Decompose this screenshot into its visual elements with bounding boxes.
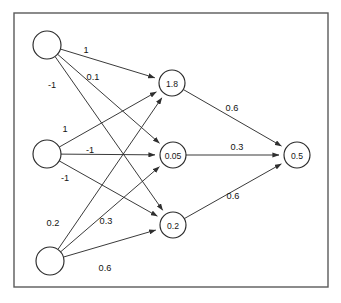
network-canvas: 1.80.050.20.5 10.1-11-1-10.20.30.60.60.3… [0, 0, 341, 303]
node-h2: 0.05 [160, 142, 186, 168]
node-o1: 0.5 [284, 142, 310, 168]
weight-label-i3-h1: 0.2 [47, 218, 60, 228]
neural-network-diagram: 1.80.050.20.5 10.1-11-1-10.20.30.60.60.3… [0, 0, 341, 303]
node-circle-i1 [33, 31, 61, 59]
node-circle-i2 [33, 140, 61, 168]
weight-label-h2-o1: 0.3 [231, 142, 244, 152]
node-h1: 1.8 [159, 70, 185, 96]
node-h3: 0.2 [160, 212, 186, 238]
node-value-h3: 0.2 [167, 221, 179, 231]
weight-label-i2-h1: 1 [62, 124, 67, 134]
weight-label-i1-h1: 1 [83, 45, 88, 55]
node-i2 [33, 140, 61, 168]
node-i1 [33, 31, 61, 59]
weight-label-i2-h2: -1 [86, 145, 94, 155]
node-i3 [36, 247, 64, 275]
weight-label-i1-h3: -1 [48, 80, 56, 90]
weight-label-i1-h2: 0.1 [87, 72, 100, 82]
node-circle-i3 [36, 247, 64, 275]
weight-label-i3-h3: 0.6 [99, 263, 112, 273]
node-value-o1: 0.5 [291, 151, 303, 161]
node-value-h2: 0.05 [165, 151, 182, 161]
weight-label-i3-h2: 0.3 [100, 216, 113, 226]
weight-label-h3-o1: 0.6 [227, 191, 240, 201]
node-value-h1: 1.8 [166, 79, 178, 89]
weight-label-i2-h3: -1 [61, 173, 69, 183]
weight-label-h1-o1: 0.6 [226, 103, 239, 113]
